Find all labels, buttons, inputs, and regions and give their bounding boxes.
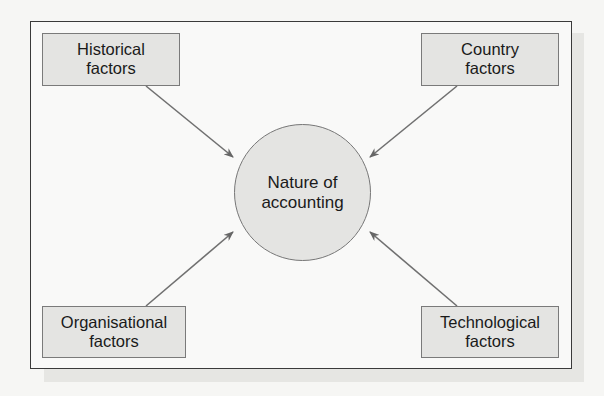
- factor-label-line2: factors: [422, 59, 558, 78]
- center-node-nature-of-accounting: Nature of accounting: [234, 124, 371, 261]
- arrow-technological: [370, 232, 457, 306]
- arrow-historical: [146, 86, 233, 157]
- center-label-line2: accounting: [261, 193, 343, 213]
- factor-label-line1: Technological: [422, 313, 558, 332]
- factor-label-line2: factors: [43, 59, 179, 78]
- factor-box-technological: Technological factors: [421, 306, 559, 358]
- factor-box-historical: Historical factors: [42, 33, 180, 86]
- center-label-line1: Nature of: [268, 173, 338, 193]
- factor-label-line1: Historical: [43, 40, 179, 59]
- arrow-country: [370, 86, 457, 157]
- factor-label-line1: Organisational: [43, 313, 185, 332]
- factor-label-line2: factors: [422, 332, 558, 351]
- factor-label-line2: factors: [43, 332, 185, 351]
- arrow-organisational: [146, 232, 233, 306]
- factor-box-country: Country factors: [421, 33, 559, 86]
- factor-box-organisational: Organisational factors: [42, 306, 186, 358]
- factor-label-line1: Country: [422, 40, 558, 59]
